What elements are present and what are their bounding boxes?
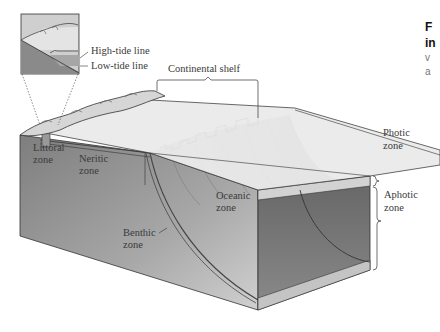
- label-low-tide-line: Low-tide line: [91, 60, 148, 72]
- label-high-tide-line: High-tide line: [91, 45, 150, 57]
- label-oceanic-zone-line2: zone: [216, 202, 236, 214]
- label-oceanic-zone-line1: Oceanic: [216, 190, 250, 202]
- tide-inset: [21, 14, 88, 125]
- marine-zones-diagram: [0, 0, 440, 332]
- caption-subtitle-fragment: in: [425, 36, 436, 50]
- label-neritic-zone-line2: zone: [79, 165, 99, 177]
- label-photic-zone-line2: zone: [383, 140, 403, 152]
- label-aphotic-zone-line2: zone: [384, 202, 404, 214]
- label-aphotic-zone-line1: Aphotic: [384, 189, 418, 201]
- caption-title-fragment: F: [425, 20, 432, 34]
- label-benthic-zone-line1: Benthic: [123, 227, 156, 239]
- label-littoral-zone-line1: Littoral: [33, 142, 65, 154]
- label-continental-shelf: Continental shelf: [168, 63, 240, 75]
- caption-text-fragment-2: a: [425, 66, 431, 77]
- block-right-face: [258, 176, 370, 310]
- label-photic-zone-line1: Photic: [383, 127, 410, 139]
- label-neritic-zone-line1: Neritic: [79, 153, 108, 165]
- label-benthic-zone-line2: zone: [123, 239, 143, 251]
- caption-text-fragment-1: v: [425, 52, 430, 63]
- label-littoral-zone-line2: zone: [33, 154, 53, 166]
